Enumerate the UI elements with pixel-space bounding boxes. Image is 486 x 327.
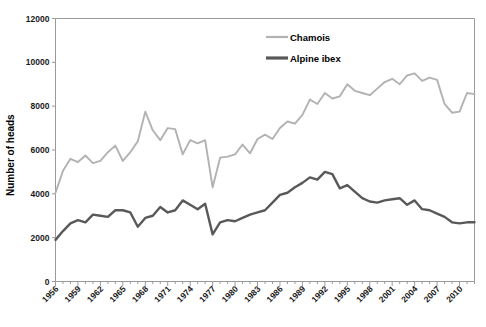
legend-label-chamois[interactable]: Chamois: [290, 32, 330, 43]
y-tick-label: 8000: [31, 101, 50, 111]
y-tick-label: 4000: [31, 189, 50, 199]
y-tick-label: 2000: [31, 233, 50, 243]
y-tick-label: 10000: [26, 57, 50, 67]
chart-container: 020004000600080001000012000 195619591962…: [0, 0, 486, 327]
line-chart: 020004000600080001000012000 195619591962…: [0, 0, 486, 327]
chart-background: [0, 0, 486, 327]
y-tick-label: 6000: [31, 145, 50, 155]
y-tick-label: 12000: [26, 14, 50, 24]
y-tick-label: 0: [45, 277, 50, 287]
legend-label-alpine-ibex[interactable]: Alpine ibex: [290, 53, 341, 64]
y-axis-title: Number of heads: [5, 114, 16, 196]
